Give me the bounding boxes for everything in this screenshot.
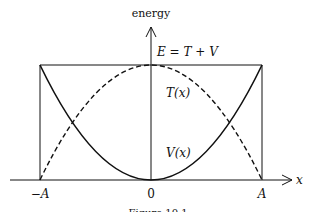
tick-left-label: −A	[31, 187, 50, 201]
tick-center-label: 0	[147, 187, 155, 201]
kinetic-label: T(x)	[166, 86, 190, 100]
tick-right-label: A	[257, 187, 267, 201]
figure-caption: Figure 10.1	[128, 207, 187, 212]
y-axis-label: energy	[132, 7, 171, 20]
energy-diagram: energy E = T + V T(x) V(x) x −A 0 A Figu…	[0, 0, 316, 212]
total-energy-label: E = T + V	[156, 45, 219, 59]
potential-label: V(x)	[166, 146, 191, 160]
x-axis-label: x	[296, 173, 303, 187]
